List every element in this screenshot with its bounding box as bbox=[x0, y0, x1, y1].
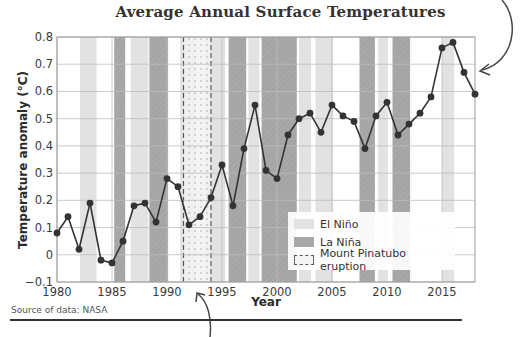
el-nino-swatch-icon bbox=[294, 219, 314, 229]
data-point bbox=[98, 257, 105, 264]
x-tick-label: 2010 bbox=[372, 285, 401, 299]
legend-item-pinatubo: Mount Pinatubo eruption bbox=[294, 251, 455, 269]
data-point bbox=[428, 93, 435, 100]
y-tick-label: 0 bbox=[46, 248, 53, 262]
bottom-divider bbox=[10, 319, 462, 321]
y-tick-label: 0.3 bbox=[35, 166, 53, 180]
data-point bbox=[439, 44, 446, 51]
data-point bbox=[109, 260, 116, 267]
data-point bbox=[120, 238, 127, 245]
y-tick-label: 0.1 bbox=[35, 221, 53, 235]
data-point bbox=[296, 115, 303, 122]
data-point bbox=[76, 246, 83, 253]
x-tick-label: 2005 bbox=[317, 285, 346, 299]
data-point bbox=[54, 230, 61, 237]
data-point bbox=[384, 99, 391, 106]
la-nina-band bbox=[229, 37, 247, 282]
x-tick-label: 1995 bbox=[207, 285, 236, 299]
data-point bbox=[153, 219, 160, 226]
data-point bbox=[87, 200, 94, 207]
data-point bbox=[340, 113, 347, 120]
data-point bbox=[373, 113, 380, 120]
el-nino-band bbox=[211, 37, 225, 282]
y-tick-label: 0.6 bbox=[35, 84, 53, 98]
la-nina-band bbox=[149, 37, 168, 282]
el-nino-band bbox=[248, 37, 259, 282]
data-point bbox=[175, 183, 182, 190]
data-point bbox=[131, 202, 138, 209]
el-nino-band bbox=[80, 37, 97, 282]
data-point bbox=[461, 69, 468, 76]
data-point bbox=[285, 132, 292, 139]
y-tick-label: 0.7 bbox=[35, 57, 53, 71]
data-point bbox=[142, 200, 149, 207]
data-point bbox=[406, 121, 413, 128]
data-point bbox=[318, 129, 325, 136]
data-point bbox=[263, 167, 270, 174]
la-nina-swatch-icon bbox=[294, 237, 314, 247]
data-source-note: Source of data: NASA bbox=[11, 305, 107, 315]
y-axis-label: Temperature anomaly (°C) bbox=[16, 71, 30, 249]
y-tick-label: 0.5 bbox=[35, 112, 53, 126]
data-point bbox=[208, 194, 215, 201]
data-point bbox=[252, 102, 259, 109]
y-tick-label: 0.8 bbox=[35, 30, 53, 44]
data-point bbox=[274, 175, 281, 182]
x-tick-label: 1985 bbox=[97, 285, 126, 299]
data-point bbox=[65, 213, 72, 220]
data-point bbox=[219, 162, 226, 169]
temperature-line-chart: −0.100.10.20.30.40.50.60.70.8 1980198519… bbox=[0, 0, 521, 337]
la-nina-band bbox=[114, 37, 125, 282]
data-point bbox=[450, 39, 457, 46]
data-point bbox=[197, 213, 204, 220]
arrow-bottom-icon bbox=[198, 294, 211, 337]
y-tick-label: 0.4 bbox=[35, 139, 53, 153]
x-axis-ticks: 19801985199019952000200520102015 bbox=[42, 285, 456, 299]
data-point bbox=[472, 91, 479, 98]
data-point bbox=[395, 132, 402, 139]
el-nino-band bbox=[131, 37, 149, 282]
y-tick-label: 0.2 bbox=[35, 193, 53, 207]
data-point bbox=[362, 145, 369, 152]
legend-label: El Niño bbox=[320, 218, 359, 231]
data-point bbox=[230, 202, 237, 209]
arrow-top-right-icon bbox=[482, 0, 512, 70]
legend-label: Mount Pinatubo eruption bbox=[320, 247, 455, 273]
data-point bbox=[417, 110, 424, 117]
legend-item-el-nino: El Niño bbox=[294, 215, 455, 233]
data-point bbox=[307, 110, 314, 117]
x-axis-label: Year bbox=[250, 295, 281, 309]
x-tick-label: 1980 bbox=[42, 285, 71, 299]
chart-legend: El Niño La Niña Mount Pinatubo eruption bbox=[288, 212, 455, 270]
data-point bbox=[329, 102, 336, 109]
data-point bbox=[186, 221, 193, 228]
data-point bbox=[351, 118, 358, 125]
pinatubo-eruption-band bbox=[184, 37, 212, 282]
pinatubo-swatch-icon bbox=[294, 255, 314, 265]
x-tick-label: 2015 bbox=[427, 285, 456, 299]
x-tick-label: 1990 bbox=[152, 285, 181, 299]
data-point bbox=[241, 145, 248, 152]
data-point bbox=[164, 175, 171, 182]
